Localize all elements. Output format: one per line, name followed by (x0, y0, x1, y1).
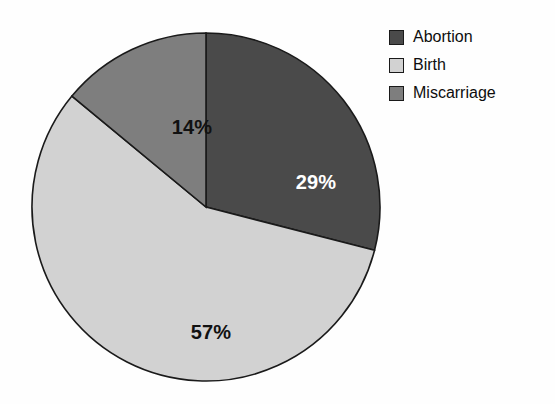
legend-item-abortion: Abortion (389, 28, 496, 46)
pie-chart-plot-area: 29% 57% 14% (31, 32, 381, 382)
pie-slice-group (32, 33, 380, 381)
legend-item-birth: Birth (389, 56, 496, 74)
legend-swatch-icon-birth (389, 58, 404, 73)
pie-chart-svg (31, 32, 381, 382)
chart-legend: Abortion Birth Miscarriage (389, 28, 496, 102)
pie-chart-figure: 29% 57% 14% Abortion Birth Miscarriage (0, 0, 555, 404)
legend-swatch-icon-abortion (389, 30, 404, 45)
legend-item-miscarriage: Miscarriage (389, 84, 496, 102)
legend-swatch-icon-miscarriage (389, 86, 404, 101)
legend-label-miscarriage: Miscarriage (413, 85, 496, 101)
legend-label-birth: Birth (413, 57, 446, 73)
legend-label-abortion: Abortion (413, 29, 473, 45)
